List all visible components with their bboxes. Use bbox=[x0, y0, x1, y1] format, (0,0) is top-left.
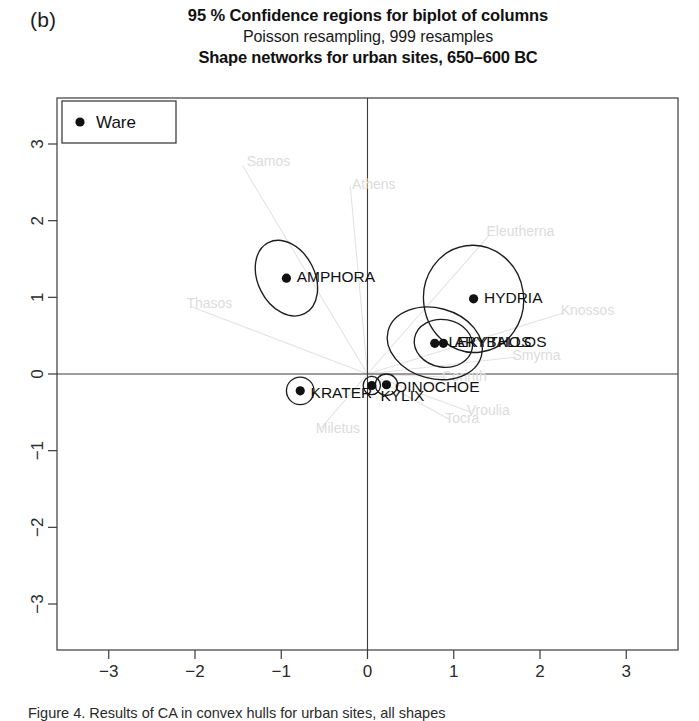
site-vector-line bbox=[191, 307, 368, 374]
legend-label-ware: Ware bbox=[96, 113, 136, 132]
ware-label-krater: KRATER bbox=[311, 384, 373, 401]
ware-point-hydria bbox=[469, 294, 478, 303]
biplot-canvas: −3−2−10123−3−2−10123SamosAthensEleuthern… bbox=[0, 0, 699, 700]
x-tick-label: 1 bbox=[449, 662, 458, 681]
ware-point-krater bbox=[296, 386, 305, 395]
ware-label-kylix: KYLIX bbox=[380, 387, 425, 404]
y-tick-label: 3 bbox=[28, 139, 47, 148]
legend-marker-icon bbox=[75, 117, 84, 126]
ware-label-lekythos: LEKYTHOS bbox=[449, 333, 532, 350]
y-tick-label: 0 bbox=[28, 369, 47, 378]
x-tick-label: −1 bbox=[272, 662, 291, 681]
ware-label-amphora: AMPHORA bbox=[297, 268, 376, 285]
site-label-tocra: Tocra bbox=[445, 410, 479, 426]
figure-root: (b) 95 % Confidence regions for biplot o… bbox=[0, 0, 699, 721]
ware-point-lekythos bbox=[430, 339, 439, 348]
ware-label-hydria: HYDRIA bbox=[484, 289, 543, 306]
ware-point-amphora bbox=[282, 274, 291, 283]
x-tick-label: −3 bbox=[99, 662, 118, 681]
x-tick-label: 2 bbox=[535, 662, 544, 681]
site-label-thasos: Thasos bbox=[186, 295, 232, 311]
site-label-samos: Samos bbox=[247, 153, 291, 169]
y-tick-label: −2 bbox=[28, 518, 47, 537]
site-label-miletus: Miletus bbox=[316, 420, 360, 436]
x-tick-label: 0 bbox=[363, 662, 372, 681]
y-tick-label: −3 bbox=[28, 594, 47, 613]
site-label-athens: Athens bbox=[352, 176, 396, 192]
y-tick-label: 1 bbox=[28, 293, 47, 302]
x-tick-label: 3 bbox=[622, 662, 631, 681]
y-tick-label: 2 bbox=[28, 216, 47, 225]
y-tick-label: −1 bbox=[28, 441, 47, 460]
x-tick-label: −2 bbox=[185, 662, 204, 681]
ware-point-aryballos bbox=[439, 339, 448, 348]
site-label-knossos: Knossos bbox=[561, 302, 615, 318]
site-label-eleutherna: Eleutherna bbox=[487, 223, 555, 239]
figure-caption: Figure 4. Results of CA in convex hulls … bbox=[28, 705, 678, 721]
